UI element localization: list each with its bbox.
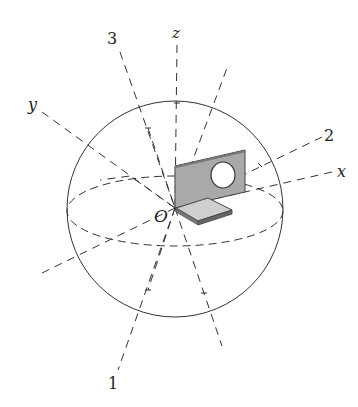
axis-upper-left <box>148 128 175 208</box>
y-axis <box>42 112 175 208</box>
label-x: x <box>337 162 346 181</box>
label-origin: O <box>154 206 168 226</box>
principal-axis-1 <box>118 208 175 370</box>
label-2: 2 <box>324 126 334 145</box>
label-3: 3 <box>107 29 117 48</box>
y-axis-negative <box>175 208 222 346</box>
hidden-edge <box>100 176 175 208</box>
sphere-diagram: z 3 y 2 x O 1 <box>0 0 358 407</box>
label-z: z <box>171 24 180 42</box>
label-y: y <box>27 95 38 114</box>
bracket-hole <box>211 162 235 188</box>
label-1: 1 <box>108 374 118 393</box>
diagram-canvas: z 3 y 2 x O 1 <box>0 0 358 407</box>
angle-bracket <box>175 150 246 225</box>
